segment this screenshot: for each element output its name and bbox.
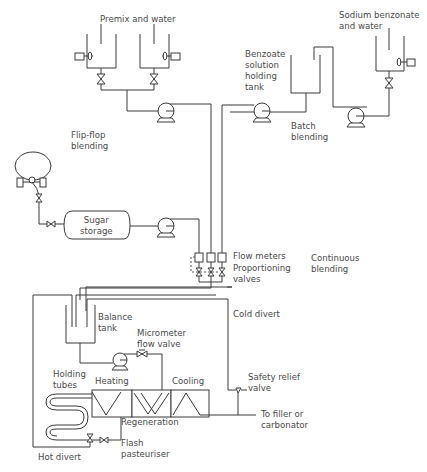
process-flow-diagram xyxy=(0,0,427,472)
valve-sugar-inlet-icon xyxy=(47,221,55,227)
valve-premix-right-icon xyxy=(150,74,158,84)
pump-benzonate-icon xyxy=(347,108,365,127)
agitator-benzonate-icon xyxy=(397,58,415,66)
valve-premix-left-icon xyxy=(97,74,105,84)
label-to-filler: To filler or carbonator xyxy=(261,409,308,431)
benzoate-holding-tank xyxy=(291,55,320,93)
agitator-left-icon xyxy=(75,52,93,60)
pump-pasteuriser-icon xyxy=(112,353,128,370)
pump-premix-icon xyxy=(157,103,175,122)
premix-tank-left xyxy=(87,24,116,68)
label-holding-tubes: Holding tubes xyxy=(53,369,86,391)
hot-divert-valve-icon xyxy=(87,434,93,442)
label-flip-flop-blending: Flip-flop blending xyxy=(71,130,108,152)
label-proportioning-valves: Proportioning valves xyxy=(233,263,291,285)
sugar-hopper xyxy=(15,152,51,196)
label-benzoate-holding-tank: Benzoate solution holding tank xyxy=(245,49,285,93)
plate-heat-exchanger xyxy=(92,390,209,417)
label-heating: Heating xyxy=(95,376,129,387)
flow-meters xyxy=(195,253,226,262)
label-batch-blending: Batch blending xyxy=(291,121,328,143)
label-regeneration: Regeneration xyxy=(121,417,179,428)
pump-benzoate-icon xyxy=(253,103,271,122)
label-continuous-blending: Continuous blending xyxy=(311,253,360,275)
micrometer-valve-icon xyxy=(137,350,147,357)
label-cold-divert: Cold divert xyxy=(233,309,280,320)
valve-hopper-icon xyxy=(36,194,42,202)
label-sugar-storage: Sugar storage xyxy=(80,215,113,237)
label-balance-tank: Balance tank xyxy=(98,312,132,334)
premix-tank-right xyxy=(140,24,169,68)
label-flash-pasteuriser: Flash pasteuriser xyxy=(121,438,170,460)
label-cooling: Cooling xyxy=(172,376,204,387)
label-premix: Premix and water xyxy=(100,14,176,25)
valve-benzonate-icon xyxy=(385,78,393,88)
agitator-right-icon xyxy=(162,52,180,60)
safety-relief-valve-icon xyxy=(236,388,247,415)
label-flow-meters: Flow meters xyxy=(233,251,286,262)
label-hot-divert: Hot divert xyxy=(38,452,81,463)
label-safety-relief-valve: Safety relief valve xyxy=(248,372,300,394)
flash-valve-icon xyxy=(100,437,108,443)
label-micrometer-valve: Micrometer flow valve xyxy=(137,328,186,350)
pump-sugar-icon xyxy=(157,218,175,237)
balance-tank xyxy=(66,305,95,343)
label-sodium-benzonate: Sodium benzonate and water xyxy=(339,10,419,32)
